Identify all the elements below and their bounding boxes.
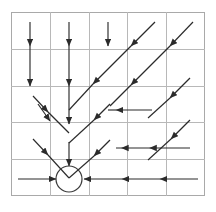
vector-field-svg bbox=[0, 0, 216, 212]
vector-field-figure bbox=[0, 0, 216, 212]
